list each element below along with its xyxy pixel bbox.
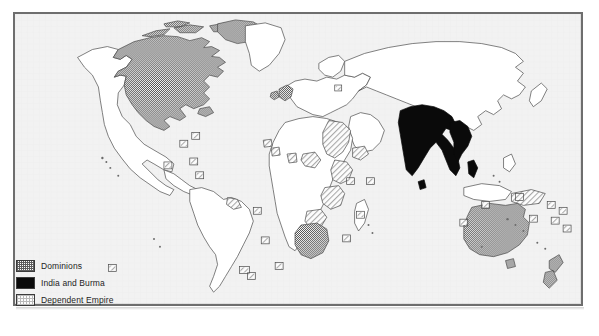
legend-label-india-and-burma: India and Burma	[41, 277, 105, 289]
legend-item-india-and-burma: India and Burma	[16, 276, 140, 289]
dependent-swatch	[16, 294, 35, 306]
frame-shadow	[16, 307, 584, 310]
dominions-swatch	[16, 260, 35, 272]
region-gold-coast	[287, 153, 297, 163]
region-tasmania	[506, 259, 516, 269]
region-gambia	[263, 139, 272, 147]
india-swatch	[16, 277, 35, 289]
legend-item-dependent-empire: Dependent Empire	[16, 293, 140, 306]
region-sierra-leone	[271, 147, 280, 156]
map-legend: Dominions India and Burma Dependent Empi…	[16, 259, 140, 306]
british-empire-world-map: Dominions India and Burma Dependent Empi…	[0, 0, 599, 336]
legend-label-dependent-empire: Dependent Empire	[41, 294, 113, 306]
legend-item-dominions: Dominions	[16, 259, 140, 272]
legend-label-dominions: Dominions	[41, 260, 82, 272]
